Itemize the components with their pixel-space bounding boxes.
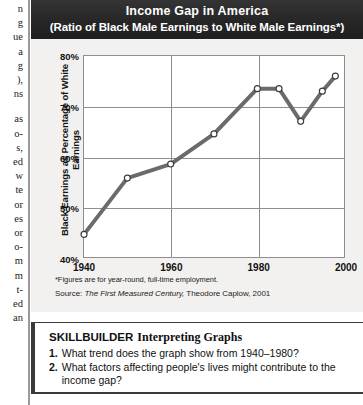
y-axis-title: Black Earnings as Percentage of White Ea… [59,50,81,250]
skillbuilder-question-list: 1.What trend does the graph show from 19… [49,347,355,388]
question-number: 1. [49,347,58,361]
source-rest: Theodore Caplow, 2001 [184,289,270,298]
x-tick-label: 1940 [73,262,95,273]
body-text-paragraph-2: as o- s, ed w te or es or o- m m t- ed a… [0,112,23,325]
y-tick-label: 80% [60,51,79,62]
x-tick-label: 1980 [248,262,270,273]
chart-source-line: Source: The First Measured Century, Theo… [55,289,270,298]
chart-title: Income Gap in America [31,3,363,19]
data-point-marker [124,175,130,181]
data-point-marker [298,118,304,124]
plot-area: 40%50%60%70%80% 1940196019802000 [83,55,345,258]
skillbuilder-box: SKILLBUILDERInterpreting Graphs 1.What t… [31,322,363,394]
adjacent-body-text-column: n g ue a g ), ns as o- s, ed w te or es … [0,0,26,405]
question-text: What factors affecting people's lives mi… [62,361,355,388]
data-point-marker [81,231,87,237]
x-tick-label: 1960 [160,262,182,273]
chart-panel: Black Earnings as Percentage of White Ea… [31,39,363,312]
x-tick-label: 2000 [335,262,357,273]
skillbuilder-heading: SKILLBUILDERInterpreting Graphs [49,330,355,345]
chart-subtitle: (Ratio of Black Male Earnings to White M… [31,19,363,35]
question-text: What trend does the graph show from 1940… [62,347,355,361]
y-tick-label: 70% [60,101,79,112]
skillbuilder-label: SKILLBUILDER [49,331,133,343]
question-number: 2. [49,361,58,375]
data-point-marker [168,161,174,167]
data-point-marker [254,86,260,92]
data-point-marker [319,88,325,94]
skillbuilder-question: 1.What trend does the graph show from 19… [49,347,355,361]
body-text-paragraph-1: n g ue a g ), ns [0,2,23,101]
data-point-marker [211,131,217,137]
data-point-marker [276,86,282,92]
chart-title-banner: Income Gap in America (Ratio of Black Ma… [31,0,363,39]
y-tick-label: 50% [60,203,79,214]
skillbuilder-question: 2.What factors affecting people's lives … [49,361,355,388]
series-polyline [84,76,335,234]
data-series-line [84,56,344,257]
chart-footnote: *Figures are for year-round, full-time e… [55,275,218,284]
data-point-marker [332,73,338,79]
figure-container: Income Gap in America (Ratio of Black Ma… [31,0,363,405]
y-tick-label: 60% [60,152,79,163]
page-bottom-strip [31,398,363,405]
skillbuilder-subtitle: Interpreting Graphs [137,330,242,344]
source-title: The First Measured Century, [84,289,184,298]
column-divider-rule [28,0,30,405]
series-markers [81,73,338,237]
source-prefix: Source: [55,289,84,298]
